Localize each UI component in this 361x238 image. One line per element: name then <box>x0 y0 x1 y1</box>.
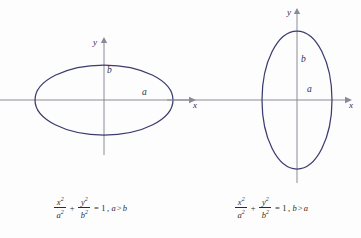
condition-expression: b>a <box>292 203 308 213</box>
semi-minor-axis-label-a: a <box>307 85 312 95</box>
plus-operator: + <box>250 203 257 213</box>
semi-major-axis-label-b: b <box>301 55 306 65</box>
horizontal-ellipse-plot <box>0 0 180 185</box>
fraction-y-over-b: y2 b2 <box>78 196 90 220</box>
condition-right: b <box>123 203 127 213</box>
equation-comma: , <box>288 203 290 213</box>
equals-operator: = <box>93 203 100 213</box>
equation-rhs: 1 <box>101 203 105 213</box>
fraction-x-over-a: x2 a2 <box>54 196 66 220</box>
y-numerator-exponent: 2 <box>266 196 269 202</box>
y-axis-arrow-icon <box>101 37 107 43</box>
semi-minor-axis-label-b: b <box>107 66 112 76</box>
condition-right: a <box>304 203 308 213</box>
equals-operator: = <box>274 203 281 213</box>
y-numerator-exponent: 2 <box>85 196 88 202</box>
plus-operator: + <box>69 203 76 213</box>
ellipse-figure: y x b a x2 a2 + y2 b2 = 1, a>b <box>0 0 361 238</box>
x-numerator-exponent: 2 <box>242 196 245 202</box>
equation-comma: , <box>107 203 109 213</box>
x-axis-label: x <box>349 101 353 110</box>
x-numerator-exponent: 2 <box>61 196 64 202</box>
fraction-y-over-b: y2 b2 <box>259 196 271 220</box>
y-axis-label: y <box>93 38 97 47</box>
panel-vertical-ellipse: y x b a x2 a2 + y2 b2 = 1, b>a <box>181 0 361 238</box>
panel-horizontal-ellipse: y x b a x2 a2 + y2 b2 = 1, a>b <box>0 0 180 238</box>
y-axis-label: y <box>287 8 291 17</box>
semi-major-axis-label-a: a <box>142 88 147 98</box>
condition-relation: > <box>116 203 123 213</box>
equation-rhs: 1 <box>282 203 286 213</box>
a-denominator-exponent: 2 <box>242 209 245 215</box>
equation-vertical-ellipse: x2 a2 + y2 b2 = 1, b>a <box>181 196 361 220</box>
b-denominator-exponent: 2 <box>85 209 88 215</box>
condition-relation: > <box>297 203 304 213</box>
b-denominator-exponent: 2 <box>266 209 269 215</box>
vertical-ellipse-plot <box>181 0 361 185</box>
a-denominator-exponent: 2 <box>61 209 64 215</box>
fraction-x-over-a: x2 a2 <box>235 196 247 220</box>
equation-horizontal-ellipse: x2 a2 + y2 b2 = 1, a>b <box>0 196 180 220</box>
condition-expression: a>b <box>111 203 127 213</box>
y-axis-arrow-icon <box>294 8 300 14</box>
